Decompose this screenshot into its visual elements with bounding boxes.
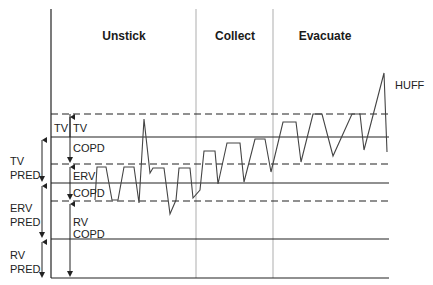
tv-label-left: TV [54,122,69,134]
airway-clearance-diagram: Unstick Collect Evacuate HUFF TV TV COPD… [0,0,433,285]
rv-pred-label-line2: PRED [10,263,41,275]
tv-copd-label: COPD [73,142,105,154]
rv-copd-arrow-down-head [67,271,73,277]
erv-pred-label-line1: ERV [10,202,33,214]
phase-label-unstick: Unstick [102,29,146,43]
tv-pred-label-line1: TV [10,155,25,167]
tv-copd-arrow-down-head [67,157,73,163]
huff-label: HUFF [395,79,425,91]
erv-label: ERV [73,170,96,182]
breathing-waveform [95,73,387,214]
phase-label-collect: Collect [215,29,255,43]
tv-pred-label-line2: PRED [10,169,41,181]
erv-pred-label-line2: PRED [10,216,41,228]
rv-label: RV [73,216,89,228]
rv-pred-label-line1: RV [10,249,26,261]
erv-pred-arrow-down-head [39,232,45,238]
phase-label-evacuate: Evacuate [299,29,352,43]
erv-copd-label: COPD [73,187,105,199]
tv-label-right: TV [73,122,88,134]
rv-copd-label: COPD [73,228,105,240]
